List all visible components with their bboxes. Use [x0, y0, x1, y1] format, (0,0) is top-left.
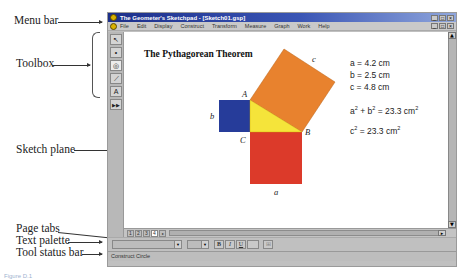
calc-exp-5: 2	[397, 125, 400, 131]
bold-button[interactable]: B	[214, 240, 224, 249]
underline-button[interactable]: U	[236, 240, 246, 249]
point-tool-icon[interactable]: •	[110, 47, 122, 58]
maximize-button[interactable]: □	[439, 15, 446, 21]
menu-construct[interactable]: Construct	[180, 23, 204, 29]
callout-toolbox: Toolbox	[16, 57, 54, 69]
measurement-b[interactable]: b = 2.5 cm	[350, 70, 390, 80]
menu-file[interactable]: File	[120, 23, 129, 29]
title-bar: The Geometer's Sketchpad - [Sketch01.gsp…	[108, 13, 456, 22]
app-window: The Geometer's Sketchpad - [Sketch01.gsp…	[107, 12, 457, 267]
text-color-button[interactable]	[247, 240, 259, 249]
side-label-c[interactable]: c	[312, 54, 316, 64]
minimize-button[interactable]: _	[431, 15, 438, 21]
compass-tool-icon[interactable]: ◎	[110, 60, 122, 71]
menu-display[interactable]: Display	[154, 23, 172, 29]
callout-tool-status-bar: Tool status bar	[16, 246, 84, 258]
page-tab-4[interactable]: 4	[151, 230, 158, 237]
close-button[interactable]: ×	[447, 15, 454, 21]
callout-text-palette: Text palette	[16, 234, 70, 246]
callout-menu-bar: Menu bar	[14, 14, 58, 26]
text-tool-icon[interactable]: A	[110, 86, 122, 97]
document-window-controls: _ □ ×	[431, 23, 456, 29]
square-b[interactable]	[219, 100, 250, 132]
scroll-right-button[interactable]: ▸	[438, 230, 446, 236]
italic-button[interactable]: I	[225, 240, 235, 249]
page-tab-2[interactable]: 2	[135, 230, 142, 237]
menu-transform[interactable]: Transform	[212, 23, 237, 29]
document-icon[interactable]	[110, 23, 117, 30]
calc-rhs: = 23.3 cm	[375, 106, 415, 116]
font-family-dropdown[interactable]: ▼	[112, 240, 182, 249]
calculation-a2-plus-b2[interactable]: a2 + b2 = 23.3 cm2	[350, 105, 418, 116]
calc-plus-b: + b	[358, 106, 372, 116]
text-palette: ▼ ▼ B I U ⊞	[108, 237, 456, 251]
doc-minimize-button[interactable]: _	[431, 23, 438, 29]
window-controls: _ □ ×	[431, 15, 456, 21]
tool-status-bar: Construct Circle	[108, 251, 456, 261]
toolbox-brace	[92, 32, 100, 98]
selection-arrow-tool-icon[interactable]: ↖	[110, 34, 122, 45]
square-a[interactable]	[250, 132, 302, 184]
measurement-a[interactable]: a = 4.2 cm	[350, 58, 390, 68]
scroll-down-button[interactable]: ▼	[448, 221, 456, 228]
font-size-dropdown[interactable]: ▼	[187, 240, 209, 249]
text-palette-leader	[68, 242, 102, 243]
side-label-a[interactable]: a	[274, 187, 278, 197]
menu-bar: File Edit Display Construct Transform Me…	[108, 22, 456, 31]
chevron-down-icon[interactable]: ▼	[174, 241, 181, 248]
toolbox: ↖ • ◎ ⟋ A ▶▶	[108, 32, 124, 237]
vertical-scrollbar[interactable]: ▲ ▼	[448, 32, 456, 228]
side-label-b[interactable]: b	[210, 111, 214, 121]
custom-tool-icon[interactable]: ▶▶	[110, 99, 122, 110]
straightedge-tool-icon[interactable]: ⟋	[110, 73, 122, 84]
window-title: The Geometer's Sketchpad - [Sketch01.gsp…	[120, 15, 245, 21]
vertex-label-a[interactable]: A	[242, 89, 247, 99]
callout-sketch-plane: Sketch plane	[16, 143, 75, 155]
doc-close-button[interactable]: ×	[447, 23, 454, 29]
document-area: ↖ • ◎ ⟋ A ▶▶ The Pythagorean Theorem A B…	[108, 32, 456, 237]
menu-graph[interactable]: Graph	[274, 23, 289, 29]
menu-help[interactable]: Help	[318, 23, 329, 29]
page-tabs-bar: 1 2 3 4 ▸ ▸	[124, 228, 456, 237]
measurement-c[interactable]: c = 4.8 cm	[350, 82, 389, 92]
horizontal-scrollbar[interactable]: ▸	[169, 230, 446, 236]
scroll-up-button[interactable]: ▲	[448, 32, 456, 39]
calc-exp-3: 2	[415, 105, 418, 111]
symbol-palette-button[interactable]: ⊞	[263, 240, 273, 249]
calculation-c2[interactable]: c2 = 23.3 cm2	[350, 125, 400, 136]
vertex-label-c[interactable]: C	[240, 135, 246, 145]
calc-c2-rhs: = 23.3 cm	[357, 126, 397, 136]
page-tab-next-arrow[interactable]: ▸	[159, 230, 166, 237]
tool-status-bar-leader	[82, 254, 102, 255]
menu-edit[interactable]: Edit	[137, 23, 146, 29]
sketch-plane[interactable]: The Pythagorean Theorem A B C a b c a = …	[124, 32, 448, 228]
figure-caption: Figure D.1	[4, 273, 32, 279]
doc-restore-button[interactable]: □	[439, 23, 446, 29]
vertex-label-b[interactable]: B	[305, 127, 310, 137]
page-tab-1[interactable]: 1	[127, 230, 134, 237]
callout-page-tabs: Page tabs	[16, 222, 60, 234]
toolbox-leader	[52, 65, 90, 66]
menu-measure[interactable]: Measure	[245, 23, 266, 29]
menu-bar-leader	[58, 22, 102, 23]
menu-work[interactable]: Work	[298, 23, 311, 29]
app-icon	[110, 14, 117, 21]
chevron-down-icon[interactable]: ▼	[201, 241, 208, 248]
page-tab-3[interactable]: 3	[143, 230, 150, 237]
